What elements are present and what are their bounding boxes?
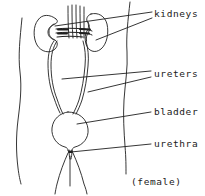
renal-hilum-vessels <box>58 29 90 34</box>
label-urethra: urethra <box>154 138 198 149</box>
left-ureter-inner <box>51 41 63 114</box>
leader-line-bladder <box>77 112 151 124</box>
anatomy-drawing <box>0 0 205 196</box>
left-leg <box>55 153 68 194</box>
right-leg <box>73 153 87 194</box>
figure-caption: (female) <box>131 176 182 187</box>
leader-line-kidneys-lower <box>96 18 152 40</box>
bladder <box>52 112 88 151</box>
urinary-system-figure: kidneys ureters bladder urethra (female) <box>0 0 205 196</box>
leader-line-ureters-upper <box>62 71 151 79</box>
leader-line-urethra <box>71 144 151 152</box>
torso-left-outline <box>17 18 23 184</box>
label-kidneys: kidneys <box>154 8 198 19</box>
leader-line-ureters-lower <box>88 77 151 92</box>
label-bladder: bladder <box>154 106 198 117</box>
label-ureters: ureters <box>154 68 198 79</box>
